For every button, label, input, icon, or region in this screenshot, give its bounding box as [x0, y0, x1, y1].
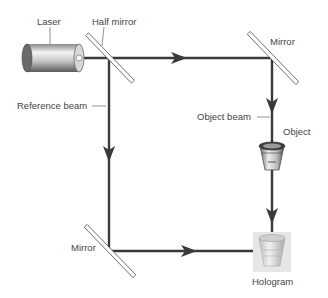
hologram-plate-icon: [253, 232, 291, 272]
label-mirror-bottom: Mirror: [71, 242, 96, 253]
label-object: Object: [283, 126, 310, 137]
label-half-mirror: Half mirror: [92, 16, 136, 27]
laser-icon: [22, 44, 84, 72]
label-object-beam: Object beam: [197, 111, 251, 122]
object-cup-icon: [259, 142, 285, 170]
label-mirror-top: Mirror: [270, 36, 295, 47]
label-hologram: Hologram: [252, 276, 293, 287]
label-reference-beam: Reference beam: [17, 100, 87, 111]
arrow-icons: [103, 52, 278, 257]
label-laser: Laser: [37, 16, 61, 27]
